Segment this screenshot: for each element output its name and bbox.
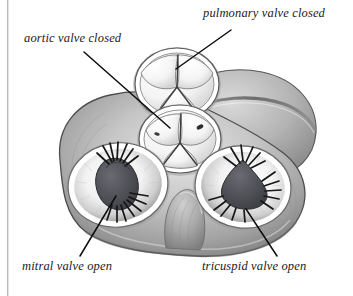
label-pulmonary-valve: pulmonary valve closed <box>203 6 325 21</box>
label-mitral-valve: mitral valve open <box>22 259 112 274</box>
label-aortic-valve: aortic valve closed <box>24 31 121 46</box>
label-tricuspid-valve: tricuspid valve open <box>202 259 306 274</box>
